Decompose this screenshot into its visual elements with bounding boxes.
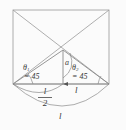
arc-full-span [13,84,109,106]
left-segment-length-fraction: l 2 [38,87,52,108]
midpoint-arrow-marker [63,82,68,86]
geometry-diagram-svg [0,0,126,130]
fraction-numerator: l [38,87,52,96]
theta2-value-label: = 45 [72,73,87,81]
figure-canvas: θ1 = 45 θ2 = 45 a l l 2 l [0,0,126,130]
apex-angle-label: a [65,59,69,67]
fraction-denominator: 2 [38,99,52,108]
outer-arc-length-label: l [59,112,62,121]
theta1-value-label: = 45 [24,73,39,81]
right-segment-length-label: l [75,86,78,95]
